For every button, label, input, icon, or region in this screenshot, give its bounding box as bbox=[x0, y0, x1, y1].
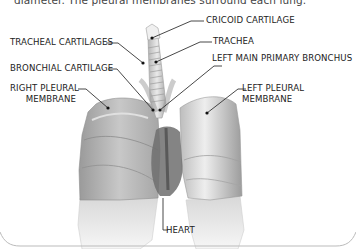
label-left-main-primary-bronchus: LEFT MAIN PRIMARY BRONCHUS bbox=[212, 53, 352, 64]
left-lung bbox=[180, 97, 242, 200]
label-tracheal-cartilages: TRACHEAL CARTILAGES bbox=[10, 37, 113, 48]
label-bronchial-cartilage: BRONCHIAL CARTILAGE bbox=[10, 63, 113, 74]
label-trachea: TRACHEA bbox=[213, 36, 254, 47]
label-cricoid-cartilage: CRICOID CARTILAGE bbox=[206, 15, 295, 26]
lower-lobes bbox=[78, 196, 244, 249]
label-heart: HEART bbox=[166, 225, 195, 236]
label-left-pleural-membrane: LEFT PLEURAL MEMBRANE bbox=[242, 83, 304, 105]
label-left-pleural-line2: MEMBRANE bbox=[242, 94, 304, 105]
label-right-pleural-membrane: RIGHT PLEURAL MEMBRANE bbox=[10, 83, 76, 105]
label-right-pleural-line2: MEMBRANE bbox=[10, 94, 76, 105]
label-right-pleural-line1: RIGHT PLEURAL bbox=[10, 83, 76, 94]
label-left-pleural-line1: LEFT PLEURAL bbox=[242, 83, 304, 94]
